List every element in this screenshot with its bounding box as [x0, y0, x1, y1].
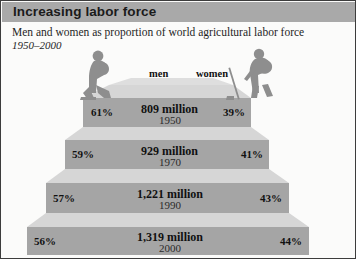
men-percent-1990: 57%	[53, 192, 75, 204]
women-percent-1970: 41%	[241, 148, 263, 160]
column-label-women: women	[196, 68, 228, 79]
women-percent-1990: 43%	[260, 192, 282, 204]
step-top-face-1970	[65, 127, 269, 140]
step-top-face-1990	[46, 169, 289, 183]
column-label-men: men	[149, 68, 168, 79]
staircase-chart	[1, 1, 356, 259]
year-1950: 1950	[159, 114, 181, 126]
man-silhouette-icon	[80, 51, 111, 100]
women-percent-2000: 44%	[280, 235, 302, 247]
top-platform	[109, 78, 233, 85]
year-1990: 1990	[159, 199, 181, 211]
men-percent-1950: 61%	[91, 106, 113, 118]
year-1970: 1970	[159, 156, 181, 168]
men-percent-2000: 56%	[34, 235, 56, 247]
women-percent-1950: 39%	[223, 106, 245, 118]
step-top-face-2000	[27, 213, 309, 227]
infographic-frame: Increasing labor force Men and women as …	[0, 0, 356, 259]
men-percent-1970: 59%	[72, 148, 94, 160]
year-2000: 2000	[159, 242, 181, 254]
